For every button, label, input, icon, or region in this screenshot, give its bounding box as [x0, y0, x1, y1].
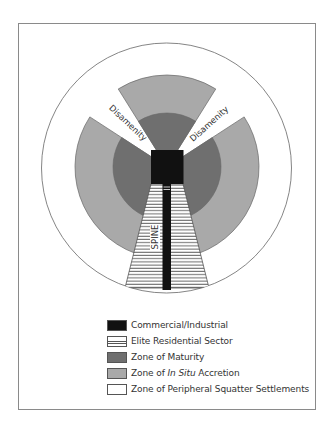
legend-item-zone-peripheral-squatter: Zone of Peripheral Squatter Settlements: [107, 381, 309, 397]
legend-swatch-zone-of-maturity: [107, 352, 127, 363]
legend-label: Elite Residential Sector: [131, 336, 233, 346]
legend-item-elite-residential: Elite Residential Sector: [107, 333, 309, 349]
legend-label: Zone of Peripheral Squatter Settlements: [131, 384, 309, 394]
legend-swatch-zone-in-situ-accretion: [107, 368, 127, 379]
legend-item-zone-of-maturity: Zone of Maturity: [107, 349, 309, 365]
legend-label-italic: In Situ: [168, 368, 196, 378]
spine-hatch-mark-1: [164, 187, 171, 188]
legend-label: Zone of In Situ Accretion: [131, 368, 240, 378]
city-structure-diagram: SPINE Disamenity Disamenity: [0, 0, 333, 300]
commercial-cbd-block: [151, 150, 184, 184]
legend-item-commercial-industrial: Commercial/Industrial: [107, 317, 309, 333]
legend-swatch-zone-peripheral-squatter: [107, 384, 127, 395]
legend-swatch-commercial-industrial: [107, 320, 127, 331]
spine-label: SPINE: [150, 225, 160, 250]
legend-label-prefix: Zone of: [131, 368, 168, 378]
legend-item-zone-in-situ-accretion: Zone of In Situ Accretion: [107, 365, 309, 381]
legend-label: Commercial/Industrial: [131, 320, 228, 330]
legend-label-suffix: Accretion: [195, 368, 239, 378]
legend: Commercial/Industrial Elite Residential …: [107, 317, 309, 397]
spine-hatch-mark-2: [164, 189, 171, 190]
commercial-spine: [163, 184, 172, 290]
legend-swatch-elite-residential: [107, 336, 127, 347]
legend-label: Zone of Maturity: [131, 352, 204, 362]
